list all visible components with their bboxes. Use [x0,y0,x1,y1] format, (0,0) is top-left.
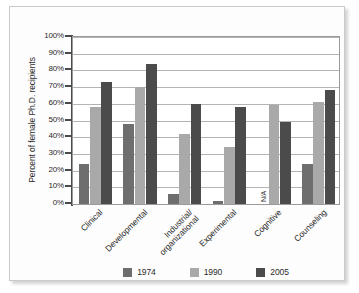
x-axis-label-line: Cognitive [232,208,284,260]
bar-1974 [79,164,90,204]
y-axis-tick-label: 30% [16,148,64,157]
x-axis-label: Clinical [53,208,105,260]
gridline [73,70,339,71]
x-axis-label: Counseling [276,208,328,260]
gridline [73,137,339,138]
y-axis-tick-label: 50% [16,115,64,124]
chart-legend: 197419902005 [72,267,340,277]
legend-item-1990[interactable]: 1990 [190,267,223,277]
bar-2005 [280,122,291,204]
bar-na-annotation: N/A [260,191,267,202]
bar-1974 [123,124,134,204]
y-axis-tick-label: 80% [16,64,64,73]
y-axis-tick-label: 0% [16,198,64,207]
legend-item-1974[interactable]: 1974 [123,267,156,277]
legend-swatch-icon [256,268,265,277]
bar-1990 [269,105,280,204]
bar-1990 [90,107,101,204]
gridline [73,87,339,88]
gridline [73,187,339,188]
y-axis-tick-label: 20% [16,165,64,174]
bar-1990 [179,134,190,204]
bar-2005 [235,107,246,204]
legend-label: 2005 [270,267,289,277]
gridline [73,37,339,38]
x-axis-label-line: Developmental [98,208,150,260]
gridline [73,121,339,122]
x-axis-label-line: Clinical [53,208,105,260]
legend-swatch-icon [190,268,199,277]
gridline [73,104,339,105]
chart-page: Percent of female Ph.D. recipients 100%9… [0,0,359,293]
y-axis-tick-label: 90% [16,48,64,57]
bar-2005 [101,82,112,204]
bar-1990 [135,87,146,204]
bar-1990 [313,102,324,204]
bar-2005 [191,104,202,204]
plot-area: N/A [72,36,340,205]
bar-1974 [213,201,224,204]
gridline [73,171,339,172]
y-axis-tick-label: 70% [16,81,64,90]
legend-swatch-icon [123,268,132,277]
chart-card: Percent of female Ph.D. recipients 100%9… [9,6,345,281]
y-axis-tick-label: 10% [16,181,64,190]
bar-1974 [302,164,313,204]
gridline [73,154,339,155]
legend-label: 1974 [137,267,156,277]
bar-1974 [168,194,179,204]
x-axis-label: Developmental [98,208,150,260]
bar-2005 [146,64,157,204]
gridline [73,54,339,55]
y-axis-tick-label: 40% [16,131,64,140]
x-axis-label-line: Counseling [276,208,328,260]
legend-item-2005[interactable]: 2005 [256,267,289,277]
y-axis-tick-label: 100% [16,31,64,40]
x-axis-label: Cognitive [232,208,284,260]
bar-1990 [224,147,235,204]
y-axis-tick-label: 60% [16,98,64,107]
legend-label: 1990 [204,267,223,277]
bar-2005 [325,90,336,204]
